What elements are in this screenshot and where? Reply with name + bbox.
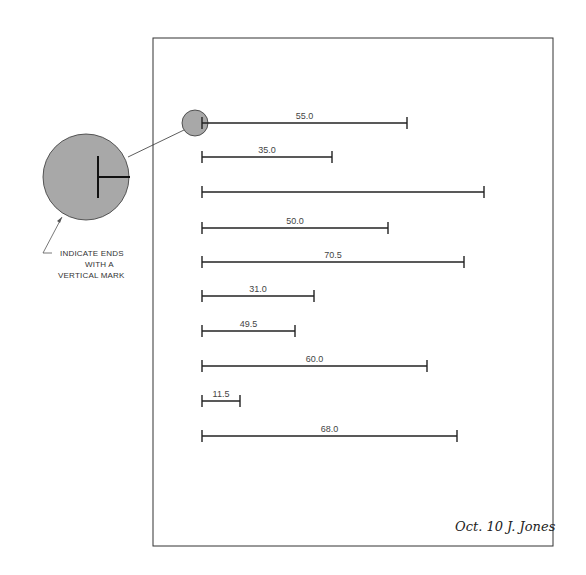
signature: Oct. 10 J. Jones — [455, 519, 556, 534]
length-label: 49.5 — [240, 319, 258, 329]
callout-line-1: INDICATE ENDS — [60, 249, 124, 258]
length-label: 35.0 — [258, 145, 276, 155]
measurement-diagram: INDICATE ENDS WITH A VERTICAL MARK 55.03… — [0, 0, 586, 575]
callout-line-3: VERTICAL MARK — [58, 271, 125, 280]
page-border — [153, 38, 553, 546]
length-label: 50.0 — [286, 216, 304, 226]
length-label: 60.0 — [306, 354, 324, 364]
length-label: 31.0 — [249, 284, 267, 294]
callout-line-2: WITH A — [85, 260, 114, 269]
length-label: 70.5 — [324, 250, 342, 260]
length-label: 11.5 — [213, 389, 230, 399]
length-label: 68.0 — [321, 424, 339, 434]
arrow-head-icon — [57, 217, 62, 223]
length-label: 55.0 — [296, 111, 314, 121]
